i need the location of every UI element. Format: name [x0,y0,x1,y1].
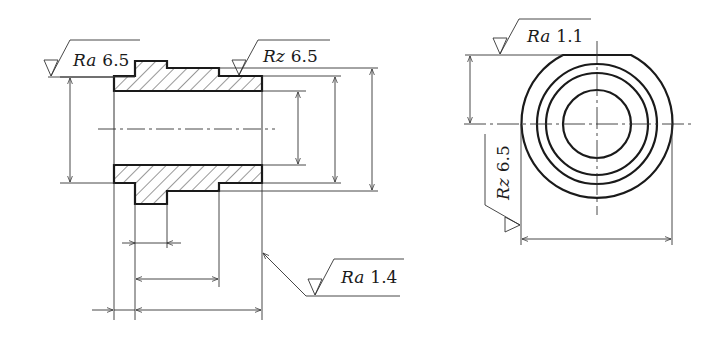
technical-drawing: Ra6.5 Rz6.5 Ra1.4 Ra [0,0,726,342]
rz-top-value: 6.5 [291,46,318,66]
bottom-wall-section [114,165,262,204]
ra-left-param: Ra [72,50,96,70]
top-wall-section [114,61,262,91]
ra-right-value: 1.1 [556,26,583,46]
svg-text:Ra1.4: Ra1.4 [340,267,397,287]
ra-end-param: Ra [340,267,364,287]
ra-end-value: 1.4 [370,267,397,287]
svg-text:Rz6.5: Rz6.5 [262,46,318,66]
rz-right-param: Rz [493,177,513,201]
end-view: Ra1.1 Rz6.5 [464,19,694,245]
svg-text:Rz6.5: Rz6.5 [493,145,513,201]
sectional-view: Ra6.5 Rz6.5 Ra1.4 [44,40,404,320]
rz-top-param: Rz [262,46,286,66]
rz-right-value: 6.5 [493,145,513,172]
ra-right-param: Ra [526,26,550,46]
svg-text:Ra6.5: Ra6.5 [72,50,129,70]
svg-text:Ra1.1: Ra1.1 [526,26,583,46]
ra-left-value: 6.5 [102,50,129,70]
